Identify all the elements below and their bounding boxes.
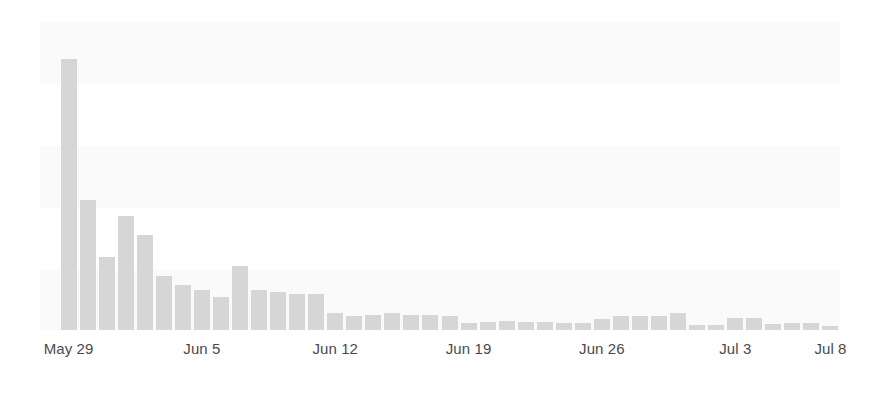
bar [746,318,762,330]
x-tick-label: Jul 8 [814,340,846,357]
bar [346,316,362,330]
bar [422,315,438,330]
bar [803,323,819,330]
bar [784,323,800,330]
bar [499,321,515,330]
bar [727,318,743,330]
bar [403,315,419,330]
x-tick-label: Jun 26 [579,340,625,357]
bar [556,323,572,330]
x-tick-label: May 29 [44,340,94,357]
bar [118,216,134,330]
bar-series [40,22,840,330]
bar [461,323,477,330]
x-axis: May 29Jun 5Jun 12Jun 19Jun 26Jul 3Jul 8 [0,330,874,370]
bar [327,313,343,330]
bar [670,313,686,330]
bar [384,313,400,330]
bar [575,323,591,330]
bar [156,276,172,330]
x-tick-label: Jul 3 [719,340,751,357]
bar-chart: May 29Jun 5Jun 12Jun 19Jun 26Jul 3Jul 8 [0,0,874,394]
bar [270,292,286,330]
bar [594,319,610,330]
bar [80,200,96,330]
bar [518,322,534,330]
bar [232,266,248,330]
bar [99,257,115,330]
bar [289,294,305,330]
bar [613,316,629,330]
x-tick-label: Jun 5 [183,340,220,357]
bar [251,290,267,330]
bar [442,316,458,330]
bar [480,322,496,330]
bar [537,322,553,330]
bar [632,316,648,330]
bar [175,285,191,330]
bar [213,297,229,330]
bar [61,59,77,330]
plot-area [40,22,840,330]
bar [365,315,381,330]
bar [651,316,667,330]
x-tick-label: Jun 12 [312,340,358,357]
x-tick-label: Jun 19 [446,340,492,357]
bar [137,235,153,330]
bar [194,290,210,330]
bar [308,294,324,330]
